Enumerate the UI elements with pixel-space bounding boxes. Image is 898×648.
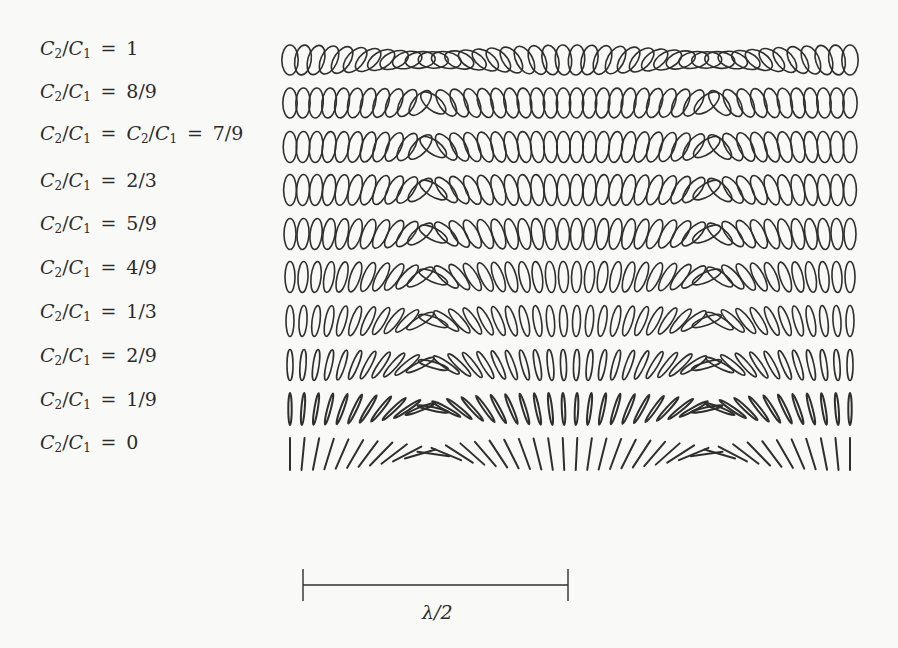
ellipse xyxy=(598,393,608,425)
ellipse xyxy=(803,261,818,293)
ellipse xyxy=(285,262,295,293)
ellipse xyxy=(296,174,310,206)
ellipse xyxy=(608,261,624,293)
director-line xyxy=(313,438,319,469)
ellipse xyxy=(474,217,497,250)
ellipse xyxy=(532,349,543,381)
ellipse xyxy=(283,132,297,163)
row-label: C2/C1 = 4/9 xyxy=(40,256,157,284)
row-label: C2/C1 = 1/9 xyxy=(40,388,157,416)
ellipse xyxy=(582,174,597,206)
ellipse xyxy=(761,87,783,120)
ellipse xyxy=(532,393,542,425)
ellipse xyxy=(357,87,379,120)
ellipse xyxy=(609,393,622,425)
ellipse xyxy=(543,131,558,163)
ellipse xyxy=(543,218,557,250)
row-label: C2/C1 = 0 xyxy=(40,431,138,459)
ellipse xyxy=(831,261,843,292)
director-line xyxy=(301,438,304,470)
ellipse xyxy=(335,349,350,380)
ellipse xyxy=(584,305,595,337)
row-label: C2/C1 = 2/9 xyxy=(40,344,157,372)
ellipse xyxy=(582,131,597,163)
ellipse xyxy=(747,130,771,164)
director-line xyxy=(821,438,827,469)
ellipse xyxy=(830,174,844,206)
ellipse xyxy=(570,218,583,249)
ellipse xyxy=(357,217,379,250)
ellipse xyxy=(586,393,593,425)
row-label: C2/C1 = C2/C1 = 7/9 xyxy=(40,122,243,150)
ellipse xyxy=(530,261,544,293)
ellipse xyxy=(847,350,853,381)
ellipse xyxy=(719,174,747,207)
ellipse xyxy=(547,393,554,425)
ellipse xyxy=(323,349,336,381)
scale-bar-label: λ/2 xyxy=(422,601,453,623)
ellipse xyxy=(460,173,485,206)
ellipse xyxy=(667,262,694,293)
ellipse xyxy=(323,393,334,425)
row-label: C2/C1 = 5/9 xyxy=(40,212,157,240)
ellipse xyxy=(556,131,570,162)
ellipse xyxy=(583,261,595,293)
ellipse-row xyxy=(282,43,858,77)
ellipse xyxy=(834,393,840,425)
ellipse xyxy=(446,262,473,293)
ellipse xyxy=(846,306,854,337)
ellipse xyxy=(460,130,485,164)
director-line xyxy=(504,440,518,469)
ellipse-row xyxy=(283,130,857,164)
ellipse xyxy=(572,305,581,336)
ellipse xyxy=(431,174,461,206)
ellipse xyxy=(312,393,321,425)
ellipse xyxy=(561,393,566,425)
ellipse xyxy=(842,45,858,75)
ellipse xyxy=(393,218,422,250)
ellipse xyxy=(733,86,758,119)
ellipse xyxy=(369,173,393,207)
ellipse xyxy=(595,218,611,250)
ellipse xyxy=(571,261,582,292)
ellipse xyxy=(299,349,307,380)
ellipse xyxy=(298,305,308,336)
ellipse xyxy=(820,393,829,425)
ellipse xyxy=(382,86,407,119)
ellipse xyxy=(297,261,309,292)
ellipse xyxy=(643,87,665,120)
ellipse xyxy=(679,87,708,120)
ellipse xyxy=(516,261,532,293)
ellipse xyxy=(517,305,532,337)
director-line xyxy=(324,439,333,470)
ellipse-row xyxy=(288,393,851,425)
ellipse xyxy=(597,349,608,381)
ellipse xyxy=(747,86,770,119)
ellipse xyxy=(844,175,857,206)
ellipse xyxy=(803,218,820,250)
ellipse-row xyxy=(287,349,853,381)
ellipse xyxy=(474,173,497,207)
director-line xyxy=(835,438,838,470)
ellipse xyxy=(761,130,783,164)
ellipse xyxy=(393,174,421,207)
ellipse xyxy=(643,130,666,164)
director-line xyxy=(576,438,578,470)
ellipse xyxy=(848,393,851,425)
ellipse xyxy=(833,349,841,380)
ellipse-row xyxy=(284,217,856,250)
ellipse xyxy=(311,349,321,381)
ellipse xyxy=(370,86,393,119)
row-label: C2/C1 = 1/3 xyxy=(40,300,157,328)
row-label: C2/C1 = 2/3 xyxy=(40,169,157,197)
ellipse-row xyxy=(284,173,857,207)
ellipse xyxy=(817,261,830,293)
ellipse xyxy=(791,393,805,424)
ellipse xyxy=(570,174,583,205)
ellipse xyxy=(805,349,818,381)
director-line xyxy=(519,439,530,469)
ellipse xyxy=(569,131,583,162)
ellipse-row xyxy=(286,305,854,337)
ellipse xyxy=(296,131,311,162)
ellipse xyxy=(733,130,759,164)
